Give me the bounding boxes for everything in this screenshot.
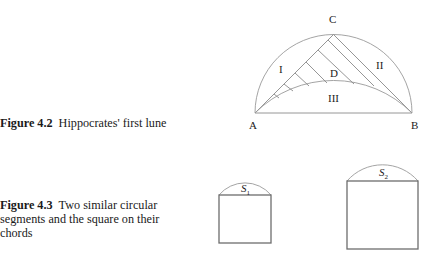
- point-label-d: D: [330, 67, 338, 79]
- hippocrates-lune-diagram: C A B D I II III: [249, 13, 418, 131]
- point-label-b: B: [411, 119, 418, 131]
- large-segment-square: S2: [347, 165, 418, 249]
- region-label-ii: II: [376, 59, 384, 71]
- region-label-i: I: [279, 63, 283, 75]
- chord-ac: [255, 35, 334, 114]
- segment-label-s2: S2: [379, 166, 389, 181]
- figures-canvas: C A B D I II III S1 S2: [0, 0, 437, 257]
- segment-label-s1: S1: [241, 182, 251, 197]
- square-s1: [219, 195, 271, 243]
- small-segment-square: S1: [219, 182, 271, 243]
- point-label-a: A: [249, 119, 257, 131]
- point-label-c: C: [329, 13, 336, 25]
- chord-cb: [334, 35, 413, 114]
- region-label-iii: III: [328, 92, 339, 104]
- square-s2: [347, 181, 418, 249]
